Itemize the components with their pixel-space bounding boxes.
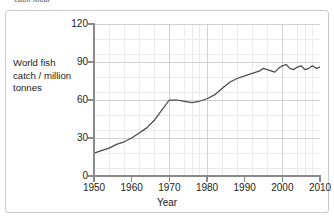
y-tick-mark (88, 137, 94, 138)
y-tick-mark (88, 61, 94, 62)
y-axis-title-line-2: catch / million (13, 70, 87, 83)
y-tick-label: 60 (58, 94, 88, 105)
plot-area (94, 24, 320, 176)
y-tick-label: 0 (58, 170, 88, 181)
chart-figure: each local World fish catch / million to… (0, 0, 334, 221)
x-tick-label: 1960 (112, 182, 152, 193)
cut-off-caption-fragment: each local (14, 0, 50, 3)
x-axis-title: Year (0, 197, 334, 208)
y-tick-label: 120 (58, 18, 88, 29)
data-series-line (94, 24, 320, 176)
x-tick-label: 1970 (149, 182, 189, 193)
x-tick-label: 1950 (74, 182, 114, 193)
y-tick-label: 90 (58, 56, 88, 67)
y-tick-label: 30 (58, 132, 88, 143)
x-tick-label: 1980 (187, 182, 227, 193)
y-tick-mark (88, 99, 94, 100)
x-tick-label: 2000 (262, 182, 302, 193)
x-tick-label: 2010 (300, 182, 334, 193)
y-axis-title-line-3: tonnes (13, 82, 87, 95)
x-tick-label: 1990 (225, 182, 265, 193)
y-tick-mark (88, 23, 94, 24)
